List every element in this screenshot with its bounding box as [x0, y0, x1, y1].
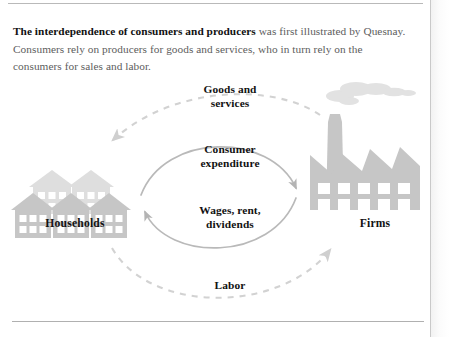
figure-caption: The interdependence of consumers and pro… — [13, 23, 413, 76]
smoke-icon — [326, 82, 416, 105]
flow-label-wages-rent-dividends: Wages, rent, dividends — [160, 203, 300, 231]
circular-flow-diagram: Goods and services Consumer expenditure … — [0, 70, 430, 315]
flow-label-labor: Labor — [160, 278, 300, 292]
caption-lead: The interdependence of consumers and pro… — [13, 25, 256, 37]
factory-icon — [310, 82, 420, 210]
node-label-firms: Firms — [320, 217, 430, 230]
node-label-households: Households — [10, 217, 140, 230]
bottom-divider — [12, 321, 424, 322]
page-canvas: The interdependence of consumers and pro… — [0, 0, 449, 337]
flow-label-consumer-expenditure: Consumer expenditure — [160, 142, 300, 170]
page-edge-shadow — [431, 0, 449, 337]
flow-label-goods-services: Goods and services — [160, 82, 300, 110]
top-divider — [8, 3, 423, 4]
